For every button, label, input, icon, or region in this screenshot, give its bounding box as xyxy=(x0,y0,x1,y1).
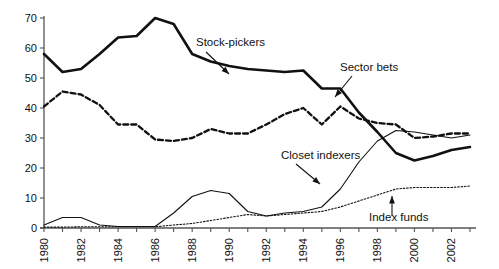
x-tick-label: 1996 xyxy=(334,238,346,262)
x-tick-label: 1980 xyxy=(38,238,50,262)
x-tick-label: 2000 xyxy=(408,238,420,262)
x-tick-label: 1984 xyxy=(112,238,124,262)
chart-canvas: 010203040506070 198019821984198619881990… xyxy=(0,0,499,269)
y-tick-label: 40 xyxy=(25,102,37,114)
annotation-label-closet-indexers: Closet indexers xyxy=(281,149,361,161)
annotation-label-stock-pickers: Stock-pickers xyxy=(196,36,265,48)
x-tick-label: 1988 xyxy=(186,238,198,262)
x-tick-label: 1986 xyxy=(149,238,161,262)
y-tick-label: 70 xyxy=(25,12,37,24)
y-tick-label: 50 xyxy=(25,72,37,84)
x-tick-label: 1992 xyxy=(260,238,272,262)
y-tick-label: 60 xyxy=(25,42,37,54)
x-tick-label: 1998 xyxy=(371,238,383,262)
x-tick-label: 1990 xyxy=(223,238,235,262)
y-tick-label: 0 xyxy=(31,222,37,234)
line-chart: 010203040506070 198019821984198619881990… xyxy=(0,0,499,269)
x-tick-label: 1982 xyxy=(75,238,87,262)
annotation-label-sector-bets: Sector bets xyxy=(340,61,398,73)
annotation-label-index-funds: Index funds xyxy=(369,211,429,223)
y-tick-label: 20 xyxy=(25,162,37,174)
x-tick-label: 2002 xyxy=(445,238,457,262)
y-tick-label: 30 xyxy=(25,132,37,144)
y-tick-label: 10 xyxy=(25,192,37,204)
x-tick-label: 1994 xyxy=(297,238,309,262)
